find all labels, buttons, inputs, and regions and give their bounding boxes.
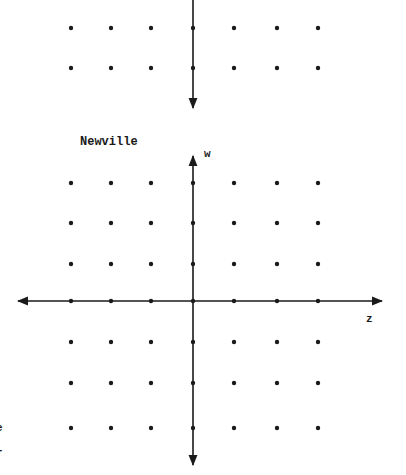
- grid-dot: [275, 426, 279, 430]
- plane-title-label: Newville: [80, 135, 138, 149]
- grid-dot: [191, 26, 195, 30]
- grid-dot: [69, 66, 73, 70]
- grid-dot: [316, 221, 320, 225]
- grid-dot: [232, 181, 236, 185]
- grid-dot: [149, 221, 153, 225]
- grid-dot: [232, 381, 236, 385]
- grid-dot: [316, 66, 320, 70]
- grid-dot: [109, 66, 113, 70]
- lower-dot-grid: [69, 181, 320, 430]
- grid-dot: [275, 221, 279, 225]
- grid-dot: [316, 381, 320, 385]
- grid-dot: [109, 262, 113, 266]
- grid-dot: [191, 426, 195, 430]
- grid-dot: [69, 181, 73, 185]
- grid-dot: [232, 26, 236, 30]
- grid-dot: [69, 426, 73, 430]
- grid-dot: [149, 262, 153, 266]
- grid-dot: [149, 299, 153, 303]
- left-edge-text-fragments: e r: [0, 422, 3, 459]
- w-axis-label: w: [204, 148, 211, 160]
- grid-dot: [109, 221, 113, 225]
- grid-dot: [316, 299, 320, 303]
- left-fragment-1: e: [0, 422, 3, 434]
- grid-dot: [232, 262, 236, 266]
- grid-dot: [316, 426, 320, 430]
- grid-dot: [109, 381, 113, 385]
- grid-dot: [191, 221, 195, 225]
- grid-dot: [149, 340, 153, 344]
- grid-dot: [191, 181, 195, 185]
- z-axis-label: z: [366, 313, 373, 325]
- grid-dot: [149, 26, 153, 30]
- grid-dot: [149, 381, 153, 385]
- grid-dot: [232, 299, 236, 303]
- coordinate-plane-figure: Newville w z e r: [0, 0, 406, 475]
- grid-dot: [109, 181, 113, 185]
- grid-dot: [316, 181, 320, 185]
- grid-dot: [275, 181, 279, 185]
- upper-plane: [69, 0, 320, 108]
- grid-dot: [275, 381, 279, 385]
- grid-dot: [275, 66, 279, 70]
- grid-dot: [191, 262, 195, 266]
- grid-dot: [149, 181, 153, 185]
- grid-dot: [69, 221, 73, 225]
- grid-dot: [69, 262, 73, 266]
- grid-dot: [316, 340, 320, 344]
- grid-dot: [316, 26, 320, 30]
- left-fragment-2: r: [0, 447, 3, 459]
- grid-dot: [191, 340, 195, 344]
- grid-dot: [109, 426, 113, 430]
- grid-dot: [232, 66, 236, 70]
- grid-dot: [149, 426, 153, 430]
- grid-dot: [191, 66, 195, 70]
- grid-dot: [69, 381, 73, 385]
- grid-dot: [275, 26, 279, 30]
- grid-dot: [149, 66, 153, 70]
- upper-dot-grid: [69, 26, 320, 70]
- grid-dot: [275, 299, 279, 303]
- grid-dot: [316, 262, 320, 266]
- grid-dot: [232, 426, 236, 430]
- grid-dot: [232, 221, 236, 225]
- grid-dot: [109, 340, 113, 344]
- grid-dot: [275, 340, 279, 344]
- grid-dot: [69, 26, 73, 30]
- grid-dot: [191, 381, 195, 385]
- grid-dot: [232, 340, 236, 344]
- lower-plane: Newville w z: [18, 135, 382, 465]
- grid-dot: [109, 299, 113, 303]
- grid-dot: [191, 299, 195, 303]
- grid-dot: [69, 299, 73, 303]
- grid-dot: [275, 262, 279, 266]
- grid-dot: [109, 26, 113, 30]
- grid-dot: [69, 340, 73, 344]
